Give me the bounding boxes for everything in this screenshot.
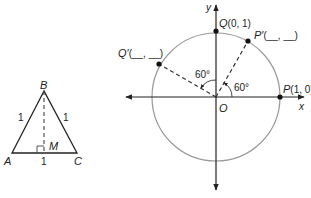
origin-label: O (219, 102, 228, 114)
x-axis-label: x (298, 101, 305, 112)
right-angle-mark (37, 146, 44, 153)
diagram-canvas: B A C M 1 1 1 x y O 60° 60° Q(0, 1) P(1,… (0, 0, 311, 198)
point-p-prime (245, 38, 250, 43)
unit-circle-figure: x y O 60° 60° Q(0, 1) P(1, 0) P′(__, __)… (118, 2, 311, 190)
side-label-ac: 1 (41, 156, 47, 167)
point-p (277, 94, 282, 99)
point-label-p-prime: P′(__, __) (254, 29, 298, 41)
angle-label-p: 60° (234, 82, 249, 93)
point-label-q-prime: Q′(__, __) (118, 47, 163, 59)
vertex-label-m: M (49, 140, 59, 152)
vertex-label-b: B (40, 79, 47, 91)
angle-arc-p-to-p-prime (224, 83, 232, 97)
point-q (213, 28, 218, 33)
angle-label-q: 60° (195, 69, 210, 80)
side-label-bc: 1 (63, 112, 69, 123)
vertex-label-c: C (74, 155, 82, 167)
vertex-label-a: A (3, 155, 11, 167)
point-label-q: Q(0, 1) (219, 17, 251, 29)
side-label-ab: 1 (18, 112, 24, 123)
equilateral-triangle: B A C M 1 1 1 (3, 79, 82, 167)
point-label-p: P(1, 0) (283, 83, 311, 95)
angle-arc-q-to-q-prime (201, 80, 216, 88)
y-axis-label: y (205, 2, 212, 13)
point-q-prime (156, 61, 161, 66)
